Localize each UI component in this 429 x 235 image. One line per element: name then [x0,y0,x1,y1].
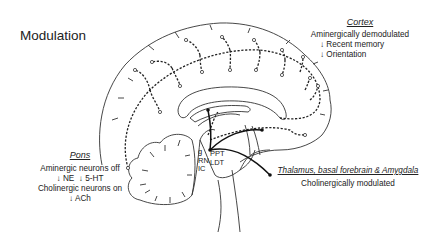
thalamus-heading: Thalamus, basal forebrain & Amygdala [268,166,428,175]
thalamus-status: Cholinergically modulated [268,179,428,189]
cerebellum-outline [128,134,195,204]
cortex-annotation: Cortex Aminergically demodulated ↓ Recen… [300,17,420,60]
pons-line-2: ↓ NE ↓ 5-HT [25,174,135,184]
pons-heading: Pons [25,150,135,160]
cortex-effect-orientation: ↓ Orientation [300,50,420,60]
diagram-title: Modulation [20,28,86,43]
pons-line-4: ↓ ACh [25,194,135,204]
cortex-status: Aminergically demodulated [300,30,420,40]
nucleus-ldt: LDT [210,159,225,168]
pons-line-1: Aminergic neurons off [25,164,135,174]
cortex-heading: Cortex [300,17,420,27]
pons-line-3: Cholinergic neurons on [25,184,135,194]
nucleus-ic: IC [198,165,209,174]
cortex-effect-memory: ↓ Recent memory [300,40,420,50]
thalamus-annotation: Thalamus, basal forebrain & Amygdala Cho… [268,166,428,189]
brain-outline [100,23,332,165]
pons-annotation: Pons Aminergic neurons off ↓ NE ↓ 5-HT C… [25,150,135,204]
nuclei-right-labels: PPT LDT [210,150,225,167]
nuclei-left-labels: g RN IC [198,148,209,174]
